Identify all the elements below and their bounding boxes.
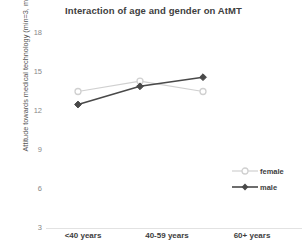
data-point-marker	[200, 74, 207, 81]
legend-label: male	[260, 183, 277, 192]
plot-area	[0, 0, 307, 247]
data-point-marker	[137, 83, 144, 90]
legend-label: female	[260, 167, 284, 176]
data-point-marker	[75, 89, 81, 95]
legend-item-female[interactable]: female	[232, 166, 284, 176]
data-point-marker	[75, 101, 82, 108]
x-tick-label: 60+ years	[202, 231, 302, 240]
legend-marker-male-icon	[232, 182, 258, 192]
legend-item-male[interactable]: male	[232, 182, 277, 192]
series-layer	[75, 74, 207, 108]
data-point-marker	[200, 89, 206, 95]
legend-marker-female-icon	[232, 166, 258, 176]
chart-container: Interaction of age and gender on AtMT At…	[0, 0, 307, 247]
